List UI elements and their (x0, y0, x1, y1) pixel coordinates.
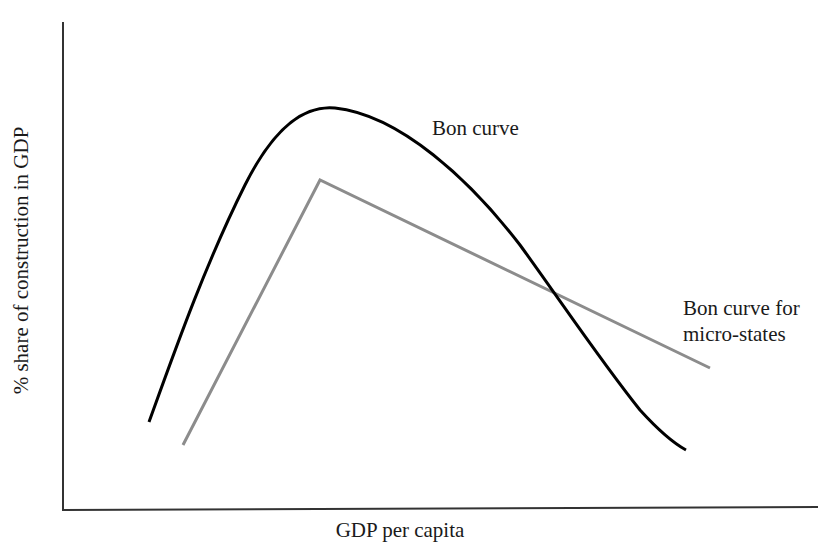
micro-states-annotation-line1: Bon curve for (683, 295, 800, 321)
y-axis-label-text: % share of construction in GDP (10, 126, 35, 394)
micro-states-bon-curve-line (183, 180, 710, 445)
micro-states-annotation-line2: micro-states (683, 321, 800, 347)
bon-curve-annotation: Bon curve (432, 115, 519, 141)
bon-curve-line (149, 108, 686, 450)
micro-states-annotation: Bon curve for micro-states (683, 295, 800, 347)
x-axis-label: GDP per capita (300, 518, 500, 543)
x-axis (62, 507, 818, 510)
y-axis-label: % share of construction in GDP (2, 80, 42, 440)
